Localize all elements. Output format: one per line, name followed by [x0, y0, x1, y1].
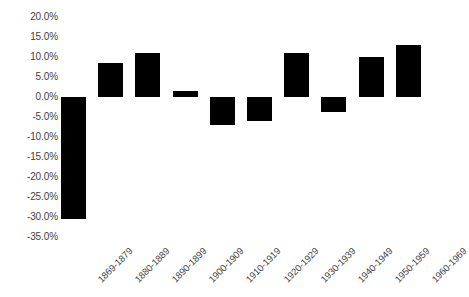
x-axis-tick-label: 1900-1909: [207, 246, 246, 285]
x-axis-tick-label: 1940-1949: [356, 246, 395, 285]
y-axis-tick-label: 20.0%: [30, 12, 58, 22]
x-axis: 1869-18791880-18891890-18991900-19091910…: [55, 246, 428, 297]
bar: [359, 57, 384, 97]
bar: [247, 97, 272, 121]
bar: [98, 63, 123, 97]
x-axis-tick-label: 1920-1929: [282, 246, 321, 285]
x-axis-tick-label: 1950-1959: [393, 246, 432, 285]
x-axis-tick-label: 1910-1919: [244, 246, 283, 285]
x-axis-tick-label: 1960-1969: [430, 246, 469, 285]
y-axis-tick-label: -20.0%: [27, 172, 58, 182]
y-axis-tick-label: -15.0%: [27, 152, 58, 162]
y-axis-tick-label: -30.0%: [27, 212, 58, 222]
x-axis-tick-label: 1930-1939: [319, 246, 358, 285]
bar: [210, 97, 235, 125]
x-axis-tick-label: 1880-1889: [133, 246, 172, 285]
y-axis-tick-label: -35.0%: [27, 232, 58, 242]
bar: [61, 97, 86, 219]
bar: [396, 45, 421, 97]
plot-area: [55, 0, 428, 250]
y-axis: 20.0%15.0%10.0%5.0%0.0%-5.0%-10.0%-15.0%…: [0, 0, 58, 250]
y-axis-tick-label: -25.0%: [27, 192, 58, 202]
x-axis-tick-label: 1890-1899: [170, 246, 209, 285]
x-axis-tick-label: 1869-1879: [96, 246, 135, 285]
y-axis-tick-label: 15.0%: [30, 32, 58, 42]
bar: [135, 53, 160, 97]
bar: [173, 91, 198, 97]
bar: [321, 97, 346, 112]
y-axis-tick-label: 10.0%: [30, 52, 58, 62]
y-axis-tick-label: -10.0%: [27, 132, 58, 142]
bar: [284, 53, 309, 97]
